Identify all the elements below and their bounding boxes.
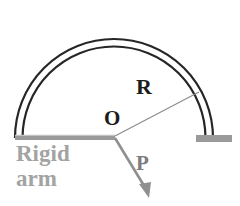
origin-label: O — [104, 108, 120, 129]
rigid-arm-label-line1: Rigid — [16, 142, 70, 165]
arch-force-diagram: R O P Rigid arm — [0, 0, 240, 206]
base-support-block — [196, 135, 232, 142]
radius-label: R — [136, 76, 152, 98]
force-label: P — [136, 153, 149, 174]
rigid-arm-label-line2: arm — [16, 167, 57, 190]
